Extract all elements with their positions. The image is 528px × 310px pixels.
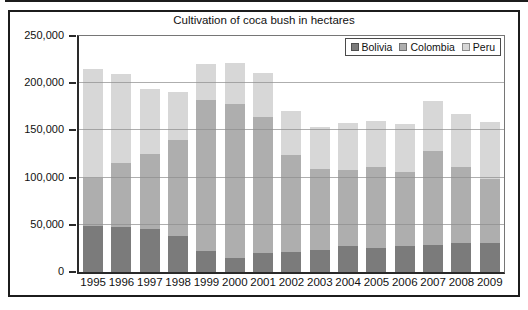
bar-2008 bbox=[451, 114, 471, 272]
bar-segment-bolivia-2007 bbox=[423, 245, 443, 272]
bar-segment-colombia-2000 bbox=[225, 104, 245, 258]
bar-segment-peru-1998 bbox=[168, 92, 188, 140]
bar-segment-bolivia-1996 bbox=[111, 227, 131, 272]
bar-2004 bbox=[338, 123, 358, 272]
bar-segment-bolivia-1998 bbox=[168, 236, 188, 272]
bar-segment-bolivia-2009 bbox=[480, 243, 500, 272]
bar-slot-1996 bbox=[107, 36, 135, 272]
bar-segment-bolivia-1997 bbox=[140, 229, 160, 272]
top-rule-line bbox=[5, 0, 528, 2]
y-tick-label: 100,000 bbox=[0, 171, 64, 184]
gridline bbox=[79, 224, 504, 225]
x-tick-label-1995: 1995 bbox=[79, 276, 107, 288]
bar-segment-bolivia-2004 bbox=[338, 246, 358, 272]
bar-segment-peru-2006 bbox=[395, 124, 415, 173]
bar-segment-bolivia-2008 bbox=[451, 243, 471, 272]
bar-segment-peru-2005 bbox=[366, 121, 386, 167]
y-tick-label: 150,000 bbox=[0, 123, 64, 136]
y-tick-label: 0 bbox=[0, 265, 64, 278]
bar-slot-2003 bbox=[306, 36, 334, 272]
bars-row bbox=[79, 36, 504, 272]
bar-slot-2005 bbox=[362, 36, 390, 272]
chart-title: Cultivation of coca bush in hectares bbox=[8, 13, 520, 27]
legend-item-peru: Peru bbox=[462, 41, 495, 53]
x-axis-labels: 1995199619971998199920002001200220032004… bbox=[79, 276, 504, 288]
x-tick-label-2004: 2004 bbox=[334, 276, 362, 288]
bar-2001 bbox=[253, 73, 273, 272]
bar-segment-bolivia-2001 bbox=[253, 253, 273, 272]
x-tick-label-2001: 2001 bbox=[249, 276, 277, 288]
bar-segment-colombia-2008 bbox=[451, 167, 471, 243]
bar-slot-2004 bbox=[334, 36, 362, 272]
bar-1996 bbox=[111, 74, 131, 272]
x-tick-label-2005: 2005 bbox=[362, 276, 390, 288]
y-tick-mark bbox=[69, 177, 76, 179]
bar-segment-bolivia-2002 bbox=[281, 252, 301, 272]
x-tick-label-2008: 2008 bbox=[447, 276, 475, 288]
bar-1997 bbox=[140, 89, 160, 272]
y-tick-label: 250,000 bbox=[0, 29, 64, 42]
bar-segment-peru-1995 bbox=[83, 69, 103, 178]
bar-slot-1997 bbox=[136, 36, 164, 272]
x-tick-label-1997: 1997 bbox=[136, 276, 164, 288]
bar-2006 bbox=[395, 124, 415, 272]
bar-segment-bolivia-1995 bbox=[83, 226, 103, 272]
legend-label: Colombia bbox=[410, 41, 454, 53]
legend-item-colombia: Colombia bbox=[399, 41, 454, 53]
x-tick-label-2009: 2009 bbox=[476, 276, 504, 288]
bar-segment-colombia-2004 bbox=[338, 170, 358, 246]
gridline bbox=[79, 82, 504, 83]
bar-segment-peru-1996 bbox=[111, 74, 131, 163]
y-tick-mark bbox=[69, 35, 76, 37]
bar-segment-bolivia-2000 bbox=[225, 258, 245, 272]
bar-segment-bolivia-2003 bbox=[310, 250, 330, 272]
bar-1998 bbox=[168, 92, 188, 272]
bar-segment-peru-2003 bbox=[310, 127, 330, 169]
bar-segment-peru-2007 bbox=[423, 101, 443, 152]
legend: BoliviaColombiaPeru bbox=[345, 38, 501, 56]
legend-label: Bolivia bbox=[362, 41, 393, 53]
y-tick-mark bbox=[69, 271, 76, 273]
bar-slot-1999 bbox=[192, 36, 220, 272]
y-tick-mark bbox=[69, 82, 76, 84]
bar-slot-1995 bbox=[79, 36, 107, 272]
legend-label: Peru bbox=[473, 41, 495, 53]
bar-2009 bbox=[480, 122, 500, 272]
x-tick-label-1998: 1998 bbox=[164, 276, 192, 288]
bar-segment-bolivia-2005 bbox=[366, 248, 386, 272]
bar-slot-2002 bbox=[277, 36, 305, 272]
x-tick-label-1999: 1999 bbox=[192, 276, 220, 288]
x-tick-label-2000: 2000 bbox=[221, 276, 249, 288]
chart-figure: Cultivation of coca bush in hectares 250… bbox=[0, 0, 528, 310]
bar-segment-colombia-2006 bbox=[395, 172, 415, 246]
bar-2002 bbox=[281, 111, 301, 272]
bar-2003 bbox=[310, 127, 330, 272]
legend-swatch-icon bbox=[351, 43, 359, 51]
bar-2007 bbox=[423, 101, 443, 272]
bar-segment-peru-1997 bbox=[140, 89, 160, 154]
bar-segment-colombia-2009 bbox=[480, 179, 500, 243]
y-tick-label: 50,000 bbox=[0, 218, 64, 231]
bar-slot-2008 bbox=[447, 36, 475, 272]
bar-segment-bolivia-2006 bbox=[395, 246, 415, 272]
bar-slot-2001 bbox=[249, 36, 277, 272]
bar-2000 bbox=[225, 63, 245, 272]
bar-segment-peru-2002 bbox=[281, 111, 301, 155]
bar-segment-colombia-2001 bbox=[253, 117, 273, 254]
bar-slot-2006 bbox=[391, 36, 419, 272]
bar-segment-peru-2008 bbox=[451, 114, 471, 167]
bar-segment-colombia-1998 bbox=[168, 140, 188, 236]
bar-slot-2000 bbox=[221, 36, 249, 272]
y-tick-mark bbox=[69, 129, 76, 131]
bar-segment-colombia-2005 bbox=[366, 167, 386, 248]
bar-segment-colombia-2003 bbox=[310, 169, 330, 250]
legend-item-bolivia: Bolivia bbox=[351, 41, 393, 53]
y-tick-label: 200,000 bbox=[0, 76, 64, 89]
x-tick-label-1996: 1996 bbox=[107, 276, 135, 288]
bar-1999 bbox=[196, 64, 216, 272]
bar-slot-2009 bbox=[476, 36, 504, 272]
y-tick-mark bbox=[69, 224, 76, 226]
gridline bbox=[79, 129, 504, 130]
bar-1995 bbox=[83, 69, 103, 272]
legend-swatch-icon bbox=[399, 43, 407, 51]
